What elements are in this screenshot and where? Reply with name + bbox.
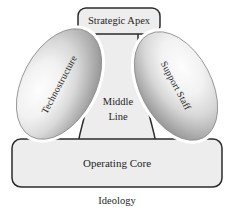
diagram-canvas: Strategic Apex Technostructure Support S… (0, 0, 234, 216)
mintzberg-diagram: Strategic Apex Technostructure Support S… (0, 0, 234, 216)
strategic-apex-label: Strategic Apex (88, 15, 151, 26)
ideology-label: Ideology (98, 195, 136, 206)
middle-line-label-1: Middle (103, 96, 134, 107)
middle-line-label-2: Line (108, 111, 128, 122)
operating-core-label: Operating Core (83, 157, 151, 169)
